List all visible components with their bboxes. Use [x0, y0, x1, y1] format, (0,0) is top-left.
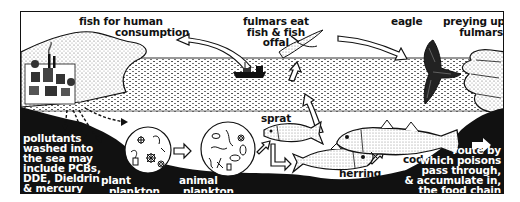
arrow-animal-to-sprat	[257, 141, 270, 154]
label-line: fulmars	[443, 27, 504, 38]
label-fulmars-eat: fulmars eat fish & fish offal	[243, 16, 309, 48]
label-plant-plankton: plant plankton	[101, 175, 160, 194]
animal-plankton-icon	[201, 122, 255, 176]
plant-plankton-icon	[125, 127, 171, 173]
label-eagle: eagle	[391, 16, 422, 27]
label-line: fish for human	[79, 16, 189, 27]
arrow-fulmar-to-eagle	[338, 36, 407, 60]
label-line: plankton	[101, 186, 160, 195]
label-line: offal	[243, 37, 309, 48]
label-preying-upon: preying upon fulmars	[443, 16, 504, 37]
food-chain-diagram: fish for human consumption fulmars eat f…	[20, 11, 504, 194]
label-line: & mercury	[23, 183, 101, 193]
label-line: fulmars eat	[243, 16, 309, 27]
arrow-sprat-to-herring	[271, 144, 291, 170]
label-legend: route by which poisons pass through, & a…	[404, 145, 501, 194]
label-sprat: sprat	[261, 113, 291, 124]
arrow-plant-to-animal	[174, 144, 191, 158]
label-line: consumption	[79, 27, 189, 38]
label-line: plankton	[179, 186, 234, 195]
label-line: the food chain	[404, 185, 501, 194]
label-herring: herring	[339, 168, 381, 179]
label-line: plant	[101, 175, 160, 186]
label-line: preying upon	[443, 16, 504, 27]
label-fish-for-human: fish for human consumption	[79, 16, 189, 37]
label-line: animal	[179, 175, 234, 186]
label-animal-plankton: animal plankton	[179, 175, 234, 194]
label-pollutants: pollutants washed into the sea may inclu…	[23, 133, 101, 193]
